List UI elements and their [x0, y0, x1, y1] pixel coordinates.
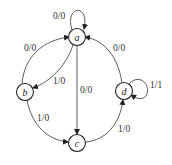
state-label-a: a	[75, 32, 80, 43]
state-node-b: b	[17, 84, 34, 101]
edge-label-a-b: 1/0	[53, 76, 65, 86]
edge-a-a	[70, 10, 84, 30]
state-label-c: c	[75, 138, 80, 149]
edge-label-a-a: 0/0	[53, 11, 65, 21]
edge-label-c-d: 1/0	[118, 124, 130, 134]
edge-c-d	[86, 100, 123, 142]
state-diagram: 0/0 0/0 1/0 0/0 0/0 1/1 1/0 1/0 a b c d	[0, 0, 172, 165]
edge-label-b-a: 0/0	[24, 43, 36, 53]
edge-label-b-c: 1/0	[37, 113, 49, 123]
state-label-b: b	[23, 87, 28, 98]
edge-label-d-a: 0/0	[113, 43, 125, 53]
state-node-a: a	[69, 29, 86, 46]
edge-label-a-c: 0/0	[80, 85, 92, 95]
state-node-d: d	[116, 83, 133, 100]
state-node-c: c	[69, 135, 86, 152]
edge-label-d-d: 1/1	[150, 80, 162, 90]
